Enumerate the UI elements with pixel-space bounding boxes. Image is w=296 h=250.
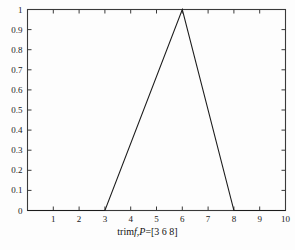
figure-canvas: trimf,P=[3 6 8] 1234567891000.10.20.30.4… — [0, 0, 295, 250]
y-tick-label: 0.7 — [1, 65, 23, 75]
x-tick-label: 5 — [147, 214, 167, 224]
y-tick-label: 0.2 — [1, 165, 23, 175]
x-tick-label: 4 — [121, 214, 141, 224]
x-tick-label: 8 — [224, 214, 244, 224]
y-tick-label: 0.8 — [1, 45, 23, 55]
y-tick-label: 0.1 — [1, 185, 23, 195]
x-tick-label: 2 — [69, 214, 89, 224]
y-tick-label: 0 — [1, 206, 23, 216]
series-line-trimf — [28, 10, 286, 211]
membership-function-plot — [0, 0, 295, 250]
x-tick-label: 3 — [95, 214, 115, 224]
x-tick-label: 6 — [172, 214, 192, 224]
x-tick-label: 7 — [198, 214, 218, 224]
y-tick-label: 1 — [1, 5, 23, 15]
x-tick-label: 10 — [276, 214, 296, 224]
y-tick-label: 0.6 — [1, 85, 23, 95]
y-tick-label: 0.9 — [1, 25, 23, 35]
y-tick-label: 0.3 — [1, 145, 23, 155]
xlabel-params: =[3 6 8] — [145, 226, 177, 237]
y-tick-label: 0.5 — [1, 105, 23, 115]
y-tick-label: 0.4 — [1, 125, 23, 135]
xlabel-prefix: trim — [117, 226, 134, 237]
x-axis-label: trimf,P=[3 6 8] — [0, 226, 295, 237]
plot-frame — [28, 10, 286, 211]
x-tick-label: 9 — [250, 214, 270, 224]
x-tick-label: 1 — [43, 214, 63, 224]
